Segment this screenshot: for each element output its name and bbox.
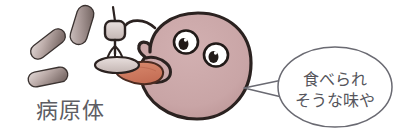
speech-bubble-line-2: そうな味や [295, 91, 375, 110]
bacterium-upper-right-icon [68, 3, 96, 46]
illustration-svg: 病原体 [0, 0, 401, 137]
proboscis-head [105, 21, 125, 40]
proboscis-antenna [113, 7, 115, 21]
proboscis-base-plate [95, 57, 139, 73]
pathogen-label: 病原体 [36, 98, 105, 123]
proboscis-connector [125, 21, 155, 28]
creature-left-eye [174, 31, 198, 54]
bacterium-lower-left-icon [27, 66, 69, 88]
pathogen-group [27, 3, 96, 88]
illustration-canvas: 病原体 [0, 0, 401, 137]
bacterium-upper-left-icon [28, 26, 69, 62]
speech-bubble-group: 食べられ そうな味や [244, 47, 392, 127]
speech-bubble-line-1: 食べられ [303, 70, 367, 89]
creature-right-eye [204, 44, 228, 67]
